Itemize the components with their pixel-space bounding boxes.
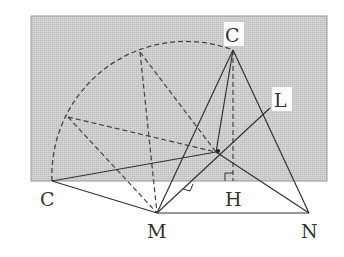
label-l: L: [274, 89, 287, 111]
label-m: M: [147, 220, 166, 242]
label-c-left: C: [40, 188, 55, 210]
label-h: H: [225, 188, 242, 210]
label-c-top: C: [225, 24, 240, 46]
geometry-diagram: C L C M H N: [0, 0, 344, 257]
point-p: [216, 149, 220, 153]
label-n: N: [301, 220, 318, 242]
